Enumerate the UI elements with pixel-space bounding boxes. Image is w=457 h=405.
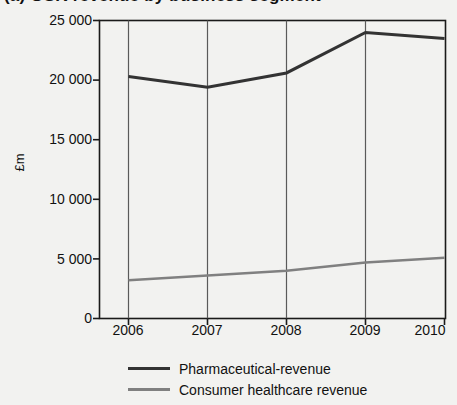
legend-swatch-icon [128, 388, 170, 391]
chart-legend: Pharmaceutical-revenue Consumer healthca… [128, 358, 448, 400]
plot-area [0, 0, 457, 405]
x-axis-ticks [129, 319, 445, 326]
legend-swatch-icon [128, 367, 170, 370]
plot-frame [100, 21, 446, 319]
legend-item-pharmaceutical-revenue: Pharmaceutical-revenue [128, 358, 448, 379]
chart-figure: (a) GSK revenue by business segment £m 2… [0, 0, 457, 405]
y-axis-ticks [93, 21, 100, 319]
legend-label: Consumer healthcare revenue [179, 382, 367, 398]
legend-label: Pharmaceutical-revenue [179, 361, 331, 377]
legend-item-consumer-healthcare-revenue: Consumer healthcare revenue [128, 379, 448, 400]
